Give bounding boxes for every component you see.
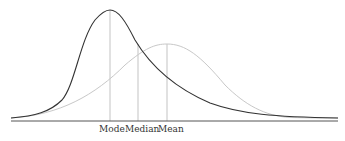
mode-label: Mode (99, 124, 125, 134)
distribution-diagram (0, 0, 345, 141)
mean-label: Mean (158, 124, 184, 134)
median-label: Median (125, 124, 159, 134)
skewed-curve (11, 10, 338, 118)
normal-curve (11, 44, 338, 118)
